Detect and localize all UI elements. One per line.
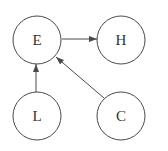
node-c-label: C	[116, 108, 126, 124]
node-h: H	[97, 16, 145, 64]
node-l-label: L	[32, 108, 41, 124]
node-e-label: E	[32, 32, 41, 48]
node-l: L	[13, 92, 61, 140]
causal-diagram: E H L C	[0, 0, 168, 151]
edge-c-to-e	[56, 57, 104, 98]
node-e: E	[13, 16, 61, 64]
node-c: C	[97, 92, 145, 140]
node-h-label: H	[116, 32, 127, 48]
